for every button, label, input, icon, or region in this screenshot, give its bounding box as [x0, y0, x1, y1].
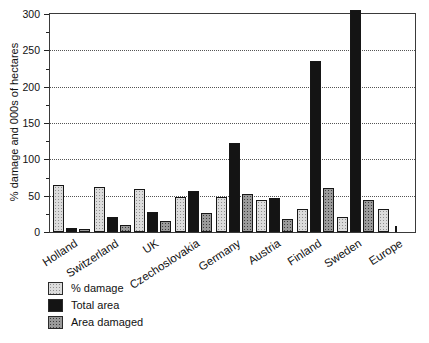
y-axis-tick [44, 232, 49, 233]
y-tick-label: 50 [0, 190, 40, 202]
x-category-label: Finland [285, 237, 323, 268]
bar-area-damaged-austria [282, 219, 293, 232]
legend-item: Total area [48, 298, 143, 312]
legend-item: Area damaged [48, 315, 143, 329]
legend-swatch-icon [48, 316, 63, 329]
bar-area-damaged-holland [79, 229, 90, 232]
y-axis-tick [46, 141, 49, 142]
legend-swatch-icon [48, 282, 63, 295]
y-axis-tick [44, 87, 49, 88]
bar-total-area-holland [66, 228, 77, 232]
x-category-label: Sweden [322, 237, 363, 270]
y-axis-labels: 050100150200250300 [0, 13, 43, 233]
plot-area [49, 13, 416, 233]
bar-total-area-czechoslovakia [188, 191, 199, 232]
legend-swatch-icon [48, 299, 63, 312]
y-tick-label: 150 [0, 117, 40, 129]
y-axis-tick [46, 214, 49, 215]
y-axis-tick [46, 105, 49, 106]
bar--damage-austria [256, 200, 267, 232]
bar--damage-sweden [337, 217, 348, 232]
bar--damage-switzerland [94, 187, 105, 232]
y-axis-tick [46, 69, 49, 70]
y-axis-tick [46, 178, 49, 179]
legend-label: Area damaged [71, 315, 143, 329]
bar--damage-finland [297, 209, 308, 232]
y-tick-label: 300 [0, 8, 40, 20]
bar-total-area-europe [395, 226, 397, 232]
legend-item: % damage [48, 281, 143, 295]
bar-area-damaged-germany [242, 194, 253, 232]
bar-area-damaged-czechoslovakia [201, 213, 212, 232]
x-category-label: Austria [246, 237, 283, 267]
legend: % damageTotal areaArea damaged [48, 281, 143, 332]
bar-total-area-sweden [350, 10, 361, 232]
legend-label: Total area [71, 298, 119, 312]
bar-total-area-austria [269, 198, 280, 232]
x-axis-labels: HollandSwitzerlandUKCzechoslovakiaGerman… [49, 234, 416, 286]
bar-total-area-switzerland [107, 217, 118, 232]
y-tick-label: 250 [0, 44, 40, 56]
x-category-label: Europe [367, 237, 405, 267]
bar--damage-holland [53, 185, 64, 232]
bar--damage-germany [216, 197, 227, 232]
y-axis-tick [44, 159, 49, 160]
y-axis-tick [44, 123, 49, 124]
bar-area-damaged-uk [160, 221, 171, 232]
y-axis-tick [44, 50, 49, 51]
bar-total-area-germany [229, 143, 240, 232]
y-axis-tick [46, 32, 49, 33]
bar-area-damaged-sweden [363, 200, 374, 232]
y-tick-label: 200 [0, 81, 40, 93]
bar-total-area-finland [310, 61, 321, 232]
x-category-label: Germany [196, 237, 242, 273]
bar--damage-czechoslovakia [175, 197, 186, 232]
y-axis-tick [44, 196, 49, 197]
bar-area-damaged-finland [323, 188, 334, 232]
y-axis-tick [44, 14, 49, 15]
bar-chart-figure: % damage and 000s of hectares 0501001502… [0, 0, 429, 343]
bar--damage-uk [134, 189, 145, 232]
y-tick-label: 0 [0, 226, 40, 238]
y-tick-label: 100 [0, 153, 40, 165]
bar-area-damaged-switzerland [120, 225, 131, 232]
legend-label: % damage [71, 281, 124, 295]
bar--damage-europe [378, 209, 389, 232]
bar-total-area-uk [147, 212, 158, 232]
x-category-label: UK [141, 237, 161, 256]
